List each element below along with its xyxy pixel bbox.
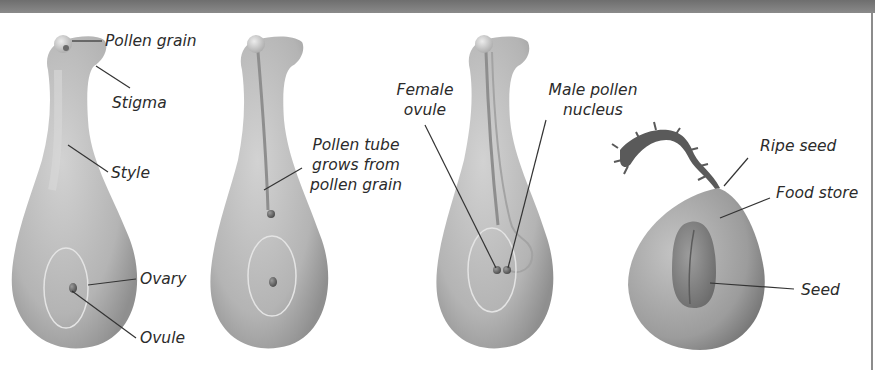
label-male-nucleus-line1: Male pollen <box>538 80 648 100</box>
dried-style <box>620 130 720 190</box>
leader-stigma <box>96 66 130 88</box>
label-pollen-tube-line3: pollen grain <box>296 175 416 195</box>
ovule-dot <box>269 277 277 287</box>
pollen-grain <box>54 35 72 53</box>
diagram-canvas <box>0 0 875 370</box>
pistil-body <box>12 36 137 348</box>
label-style: Style <box>111 163 150 183</box>
label-pollen-tube: Pollen tube grows from pollen grain <box>296 135 416 195</box>
pollen-tube-nucleus <box>267 210 275 218</box>
label-pollen-tube-line1: Pollen tube <box>296 135 416 155</box>
label-female-ovule: Female ovule <box>380 80 470 120</box>
label-pollen-grain: Pollen grain <box>105 31 197 51</box>
label-pollen-tube-line2: grows from <box>296 155 416 175</box>
label-female-ovule-line1: Female <box>380 80 470 100</box>
pollen-grain <box>475 35 493 53</box>
label-ovary: Ovary <box>140 269 186 289</box>
leader-ripe-seed <box>724 158 748 186</box>
label-ripe-seed: Ripe seed <box>760 136 836 156</box>
female-ovule-dot <box>493 266 501 274</box>
label-seed: Seed <box>801 280 840 300</box>
seed-embryo <box>672 222 716 308</box>
label-stigma: Stigma <box>112 93 167 113</box>
pistil-1 <box>12 35 137 348</box>
label-food-store: Food store <box>776 183 858 203</box>
male-nucleus-dot <box>503 266 511 274</box>
pollen-grain-nucleus <box>63 45 69 51</box>
label-ovule: Ovule <box>140 328 185 348</box>
ripe-seed-pod <box>612 122 794 350</box>
pollen-grain <box>247 35 265 53</box>
label-female-ovule-line2: ovule <box>380 100 470 120</box>
label-male-pollen-nucleus: Male pollen nucleus <box>538 80 648 120</box>
label-male-nucleus-line2: nucleus <box>538 100 648 120</box>
